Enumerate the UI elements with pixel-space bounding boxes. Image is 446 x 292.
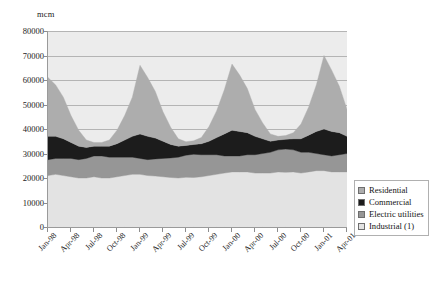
chart-legend: ResidentialCommercialElectric utilitiesI… [354, 180, 429, 236]
plot-area [47, 31, 347, 228]
plot-inner [48, 31, 347, 227]
legend-swatch-icon [358, 199, 365, 206]
legend-item[interactable]: Residential [358, 184, 424, 196]
legend-item[interactable]: Industrial (1) [358, 220, 424, 232]
area-series [48, 171, 347, 227]
area-series-svg [48, 31, 347, 227]
legend-item-label: Industrial (1) [369, 222, 414, 231]
y-axis-unit-label: mcm [37, 9, 55, 19]
stacked-area-chart: mcm 010000200003000040000500006000070000… [0, 0, 446, 292]
legend-item[interactable]: Electric utilities [358, 208, 424, 220]
chart-title [0, 0, 446, 1]
legend-item-label: Electric utilities [369, 210, 424, 219]
legend-item[interactable]: Commercial [358, 196, 424, 208]
legend-item-label: Residential [369, 186, 408, 195]
legend-swatch-icon [358, 211, 365, 218]
y-axis-tick-marks [0, 31, 47, 228]
area-series [48, 56, 347, 148]
legend-swatch-icon [358, 187, 365, 194]
x-axis-tick-labels: Jan-98Apr-98Jul-98Oct-98Jan-99Apr-99Jul-… [0, 231, 446, 292]
legend-swatch-icon [358, 223, 365, 230]
legend-item-label: Commercial [369, 198, 411, 207]
